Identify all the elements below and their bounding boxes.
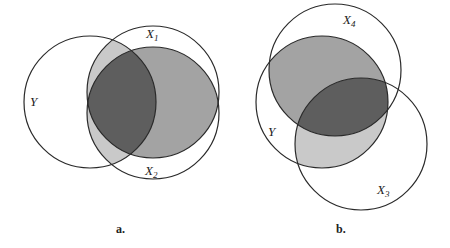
label-x1: X1 [145, 26, 158, 43]
venn-figure: Y X1 X2 a. Y X4 X3 b. [0, 0, 450, 248]
diagram-b: Y X4 X3 b. [256, 4, 427, 236]
label-x2: X2 [144, 163, 158, 180]
caption-b: b. [336, 222, 346, 236]
label-y-a: Y [30, 94, 39, 109]
label-x4: X4 [342, 12, 356, 29]
label-y-b: Y [268, 124, 277, 139]
caption-a: a. [116, 222, 125, 236]
label-x3: X3 [376, 182, 390, 199]
diagram-a: Y X1 X2 a. [24, 26, 219, 236]
